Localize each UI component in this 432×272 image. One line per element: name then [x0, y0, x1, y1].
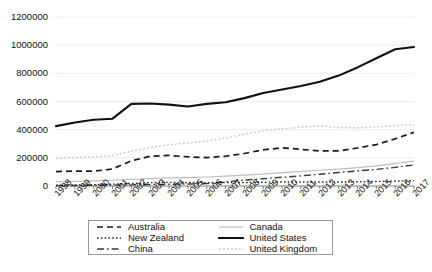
legend-label: Canada — [250, 221, 283, 232]
y-axis-tick-label: 600000 — [16, 97, 48, 107]
legend-item-australia[interactable]: Australia — [89, 221, 211, 232]
series-line-australia — [56, 132, 414, 171]
y-axis-tick-label: 400000 — [16, 125, 48, 135]
legend-label: Australia — [128, 221, 165, 232]
legend-swatch-icon — [96, 245, 122, 253]
y-axis-labels: 120000010000008000006000004000002000000 — [0, 0, 52, 200]
y-axis-tick-label: 1200000 — [11, 12, 48, 22]
legend-item-united-states[interactable]: United States — [211, 232, 333, 243]
chart-legend: AustraliaCanadaNew ZealandUnited StatesC… — [88, 220, 333, 255]
legend-item-china[interactable]: China — [89, 243, 211, 254]
cropped-caption-strip — [0, 263, 420, 272]
legend-item-canada[interactable]: Canada — [211, 221, 333, 232]
legend-swatch-icon — [218, 234, 244, 242]
y-axis-tick-label: 800000 — [16, 68, 48, 78]
legend-label: United States — [250, 232, 307, 243]
plot-svg — [0, 0, 420, 200]
legend-item-united-kingdom[interactable]: United Kingdom — [211, 243, 333, 254]
legend-swatch-icon — [218, 245, 244, 253]
legend-item-new-zealand[interactable]: New Zealand — [89, 232, 211, 243]
legend-swatch-icon — [218, 223, 244, 231]
y-axis-tick-label: 200000 — [16, 153, 48, 163]
legend-label: New Zealand — [128, 232, 184, 243]
series-line-united-states — [56, 47, 414, 126]
plot-area — [0, 0, 420, 200]
legend-swatch-icon — [96, 234, 122, 242]
y-axis-tick-label: 1000000 — [11, 40, 48, 50]
legend-label: United Kingdom — [250, 243, 318, 254]
x-axis-labels: 1998199920002001200220032004200520062007… — [0, 186, 420, 222]
legend-label: China — [128, 243, 153, 254]
legend-swatch-icon — [96, 223, 122, 231]
